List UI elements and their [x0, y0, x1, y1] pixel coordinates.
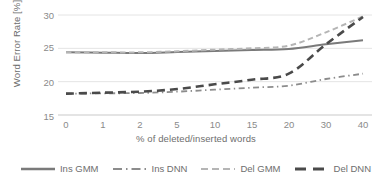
x-tick-label: 2	[137, 119, 142, 130]
x-tick-label: 10	[210, 119, 221, 130]
legend-label: Del DNN	[334, 163, 371, 174]
x-tick-label: 30	[321, 119, 332, 130]
x-tick-label: 1	[100, 119, 105, 130]
legend-item-ins-dnn[interactable]: Ins DNN	[113, 163, 188, 174]
x-tick-label: 15	[247, 119, 258, 130]
legend-swatch-del-dnn	[295, 164, 329, 174]
x-tick-label: 20	[284, 119, 295, 130]
legend-item-del-dnn[interactable]: Del DNN	[295, 163, 371, 174]
legend-item-del-gmm[interactable]: Del GMM	[201, 163, 280, 174]
legend-label: Ins DNN	[152, 163, 188, 174]
chart-legend: Ins GMM Ins DNN Del GMM Del DNN	[0, 163, 392, 174]
x-tick-label: 40	[358, 119, 369, 130]
series-line-del-dnn	[66, 17, 363, 94]
legend-label: Del GMM	[240, 163, 280, 174]
legend-label: Ins GMM	[60, 163, 99, 174]
legend-swatch-ins-gmm	[21, 164, 55, 174]
plot-area	[0, 0, 392, 187]
x-tick-label: 5	[174, 119, 179, 130]
chart-container: Word Error Rate [%] 30 25 20 15 0 1 2 5 …	[0, 0, 392, 187]
legend-swatch-del-gmm	[201, 164, 235, 174]
grid-lines	[58, 15, 372, 115]
x-axis-title: % of deleted/inserted words	[0, 133, 392, 144]
legend-swatch-ins-dnn	[113, 164, 147, 174]
legend-item-ins-gmm[interactable]: Ins GMM	[21, 163, 99, 174]
x-tick-label: 0	[63, 119, 68, 130]
series-line-del-gmm	[66, 16, 363, 52]
